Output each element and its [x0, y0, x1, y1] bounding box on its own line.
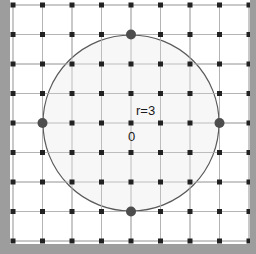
- lattice-point: [40, 62, 45, 67]
- lattice-point: [217, 32, 222, 37]
- lattice-point: [217, 180, 222, 185]
- lattice-point: [99, 150, 104, 155]
- lattice-point: [99, 3, 104, 8]
- lattice-point: [11, 150, 16, 155]
- lattice-point: [11, 209, 16, 214]
- lattice-point: [217, 239, 222, 244]
- lattice-point: [40, 209, 45, 214]
- lattice-point: [11, 62, 16, 67]
- lattice-point: [70, 180, 75, 185]
- lattice-point: [129, 121, 134, 126]
- lattice-point: [158, 209, 163, 214]
- lattice-point: [70, 32, 75, 37]
- lattice-point: [247, 62, 251, 67]
- lattice-point: [11, 32, 16, 37]
- lattice-point: [247, 121, 251, 126]
- lattice-point: [158, 180, 163, 185]
- lattice-point: [40, 91, 45, 96]
- circle-lattice-point: [38, 118, 48, 128]
- lattice-point: [40, 239, 45, 244]
- lattice-point: [129, 62, 134, 67]
- lattice-point: [129, 3, 134, 8]
- lattice-point: [188, 121, 193, 126]
- lattice-point: [158, 239, 163, 244]
- lattice-point: [158, 91, 163, 96]
- lattice-point: [70, 121, 75, 126]
- lattice-point: [247, 150, 251, 155]
- lattice-point: [158, 121, 163, 126]
- lattice-point: [11, 239, 16, 244]
- lattice-point: [188, 62, 193, 67]
- lattice-point: [70, 62, 75, 67]
- lattice-point: [70, 150, 75, 155]
- lattice-point: [11, 91, 16, 96]
- lattice-point: [158, 150, 163, 155]
- lattice-point: [188, 180, 193, 185]
- lattice-point: [188, 91, 193, 96]
- lattice-diagram: [10, 0, 250, 244]
- lattice-point: [217, 91, 222, 96]
- lattice-point: [40, 150, 45, 155]
- lattice-point: [99, 62, 104, 67]
- lattice-point: [99, 209, 104, 214]
- lattice-point: [247, 209, 251, 214]
- lattice-circle-figure: r=3 0: [0, 0, 256, 254]
- lattice-point: [70, 3, 75, 8]
- circle-lattice-point: [126, 30, 136, 40]
- lattice-point: [129, 180, 134, 185]
- lattice-point: [70, 91, 75, 96]
- lattice-point: [217, 62, 222, 67]
- lattice-point: [70, 239, 75, 244]
- lattice-point: [188, 32, 193, 37]
- lattice-point: [188, 209, 193, 214]
- lattice-point: [40, 3, 45, 8]
- circle-lattice-point: [215, 118, 225, 128]
- lattice-point: [40, 32, 45, 37]
- lattice-point: [40, 180, 45, 185]
- lattice-point: [11, 3, 16, 8]
- lattice-point: [99, 32, 104, 37]
- lattice-point: [188, 239, 193, 244]
- lattice-point: [129, 239, 134, 244]
- lattice-point: [188, 3, 193, 8]
- lattice-point: [99, 91, 104, 96]
- lattice-point: [158, 32, 163, 37]
- lattice-point: [247, 32, 251, 37]
- lattice-point: [247, 91, 251, 96]
- lattice-point: [158, 3, 163, 8]
- lattice-point: [11, 121, 16, 126]
- radius-label: r=3: [136, 104, 155, 117]
- lattice-point: [99, 239, 104, 244]
- lattice-point: [99, 180, 104, 185]
- origin-label: 0: [128, 130, 135, 143]
- plot-area: r=3 0: [10, 0, 250, 244]
- lattice-point: [158, 62, 163, 67]
- lattice-point: [129, 150, 134, 155]
- lattice-point: [217, 150, 222, 155]
- lattice-point: [70, 209, 75, 214]
- lattice-point: [99, 121, 104, 126]
- lattice-point: [217, 3, 222, 8]
- lattice-point: [217, 209, 222, 214]
- lattice-point: [247, 3, 251, 8]
- lattice-point: [188, 150, 193, 155]
- lattice-point: [247, 180, 251, 185]
- lattice-point: [129, 91, 134, 96]
- lattice-point: [11, 180, 16, 185]
- circle-lattice-point: [126, 207, 136, 217]
- lattice-point: [247, 239, 251, 244]
